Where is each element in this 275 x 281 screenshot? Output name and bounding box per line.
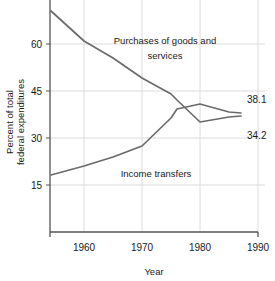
income-transfers-end-value-label: 38.1: [247, 94, 267, 105]
x-tick-label-1970: 1970: [131, 242, 154, 253]
income-transfers-label: Income transfers: [121, 168, 192, 179]
line-chart: 60 45 30 15 1960 1970 1980 1990 Year Per…: [0, 0, 275, 281]
y-tick-label-60: 60: [31, 39, 43, 50]
y-axis-title: Percent of total federal expenditures: [4, 79, 26, 165]
chart-figure: 60 45 30 15 1960 1970 1980 1990 Year Per…: [0, 0, 275, 281]
x-tick-label-1960: 1960: [73, 242, 96, 253]
purchases-label-line1: Purchases of goods and: [114, 35, 216, 46]
purchases-label-line2: services: [148, 50, 183, 61]
y-tick-label-15: 15: [31, 180, 43, 191]
x-tick-label-1980: 1980: [189, 242, 212, 253]
y-tick-label-45: 45: [31, 86, 43, 97]
y-axis-title-line2: federal expenditures: [15, 79, 26, 165]
y-tick-label-30: 30: [31, 133, 43, 144]
x-tick-label-1990: 1990: [247, 242, 270, 253]
y-axis-title-line1: Percent of total: [4, 90, 15, 154]
purchases-end-value-label: 34.2: [247, 130, 267, 141]
x-axis-title: Year: [144, 266, 163, 277]
